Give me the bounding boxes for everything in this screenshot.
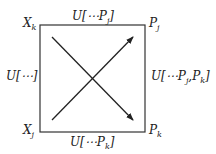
edge-label-right: U[⋯Pj,Pk] [151,70,210,85]
edge-label-bottom: U[⋯Pk] [70,136,114,151]
corner-label-bottom-right: Pk [149,124,162,139]
corner-label-top-left: Xk [23,17,36,32]
edge-label-left: U[⋯] [6,70,37,82]
corner-label-top-right: Pj [149,17,160,32]
corner-label-bottom-left: Xj [23,124,34,139]
edge-label-top: U[⋯Pj] [72,10,114,25]
